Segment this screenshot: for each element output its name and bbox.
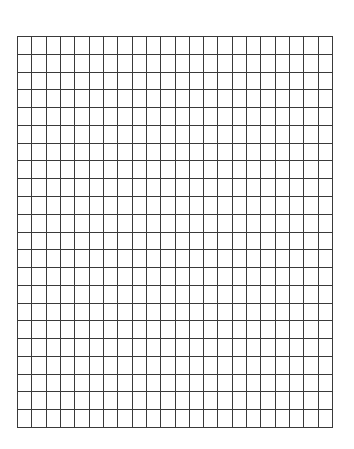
grid-cell (132, 267, 146, 285)
grid-cell (275, 107, 289, 125)
grid-cell (17, 89, 31, 107)
grid-cell (275, 267, 289, 285)
grid-cell (318, 338, 332, 356)
grid-cell (260, 89, 274, 107)
grid-cell (74, 232, 88, 250)
grid-cell (203, 72, 217, 90)
grid-cell (117, 356, 131, 374)
grid-cell (46, 214, 60, 232)
grid-cell (60, 143, 74, 161)
grid-cell (103, 285, 117, 303)
grid-cell (160, 54, 174, 72)
grid-cell (60, 54, 74, 72)
grid-cell (232, 249, 246, 267)
grid-cell (160, 249, 174, 267)
grid-cell (275, 72, 289, 90)
grid-cell (260, 196, 274, 214)
grid-cell (318, 125, 332, 143)
grid-cell (175, 89, 189, 107)
grid-cell (89, 338, 103, 356)
grid-cell (146, 285, 160, 303)
grid-cell (303, 374, 317, 392)
grid-cell (103, 143, 117, 161)
grid-cell (175, 320, 189, 338)
grid-cell (203, 374, 217, 392)
grid-cell (160, 36, 174, 54)
grid-cell (303, 107, 317, 125)
grid-cell (217, 36, 231, 54)
grid-cell (89, 178, 103, 196)
grid-cell (260, 107, 274, 125)
grid-cell (132, 107, 146, 125)
grid-cell (132, 54, 146, 72)
grid-cell (160, 285, 174, 303)
grid-cell (217, 249, 231, 267)
grid-cell (74, 285, 88, 303)
grid-cell (318, 72, 332, 90)
grid-cell (31, 72, 45, 90)
grid-cell (74, 89, 88, 107)
grid-cell (132, 214, 146, 232)
grid-cell (31, 338, 45, 356)
grid-cell (31, 125, 45, 143)
grid-cell (17, 160, 31, 178)
grid-cell (232, 391, 246, 409)
grid-cell (289, 374, 303, 392)
grid-cell (132, 89, 146, 107)
grid-cell (132, 232, 146, 250)
grid-cell (103, 303, 117, 321)
grid-cell (60, 338, 74, 356)
grid-cell (60, 285, 74, 303)
grid-cell (132, 125, 146, 143)
grid-cell (246, 89, 260, 107)
grid-cell (146, 214, 160, 232)
grid-cell (232, 285, 246, 303)
grid-cell (146, 36, 160, 54)
grid-cell (146, 160, 160, 178)
grid-cell (146, 125, 160, 143)
grid-cell (89, 249, 103, 267)
grid-cell (146, 107, 160, 125)
grid-cell (31, 391, 45, 409)
grid-cell (175, 143, 189, 161)
grid-cell (160, 178, 174, 196)
grid-cell (260, 320, 274, 338)
grid-cell (74, 374, 88, 392)
grid-cell (232, 374, 246, 392)
grid-cell (175, 356, 189, 374)
grid-cell (303, 36, 317, 54)
grid-cell (275, 249, 289, 267)
grid-cell (217, 89, 231, 107)
grid-cell (89, 72, 103, 90)
grid-cell (31, 374, 45, 392)
grid-cell (289, 267, 303, 285)
grid-cell (260, 214, 274, 232)
grid-cell (260, 143, 274, 161)
grid-cell (318, 107, 332, 125)
grid-cell (160, 303, 174, 321)
grid-cell (175, 36, 189, 54)
grid-cell (275, 89, 289, 107)
grid-cell (60, 409, 74, 427)
grid-cell (31, 143, 45, 161)
grid-cell (318, 232, 332, 250)
grid-cell (232, 54, 246, 72)
grid-cell (89, 143, 103, 161)
grid-cell (189, 54, 203, 72)
grid-cell (289, 356, 303, 374)
grid-cell (203, 178, 217, 196)
grid-cell (132, 320, 146, 338)
grid-cell (103, 196, 117, 214)
grid-cell (217, 267, 231, 285)
grid-cell (89, 54, 103, 72)
grid-cell (175, 72, 189, 90)
grid-cell (60, 107, 74, 125)
grid-cell (17, 72, 31, 90)
grid-cell (74, 249, 88, 267)
grid-cell (289, 338, 303, 356)
grid-cell (260, 356, 274, 374)
grid-cell (31, 356, 45, 374)
grid-cell (203, 320, 217, 338)
grid-cell (232, 338, 246, 356)
grid-cell (74, 214, 88, 232)
